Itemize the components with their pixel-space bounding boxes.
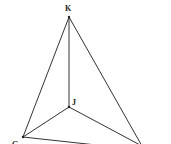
vertex-g <box>22 136 24 138</box>
edge-kg <box>23 17 69 137</box>
vertex-j <box>68 106 70 108</box>
edge-jg <box>23 107 69 137</box>
edge-jr <box>69 107 142 144</box>
tetrahedron-diagram: K J G <box>0 0 171 144</box>
vertex-k <box>68 16 70 18</box>
edge-kr <box>69 17 142 144</box>
label-j: J <box>72 98 76 107</box>
label-k: K <box>65 4 72 13</box>
edge-gr <box>23 137 142 144</box>
label-g: G <box>12 140 18 144</box>
